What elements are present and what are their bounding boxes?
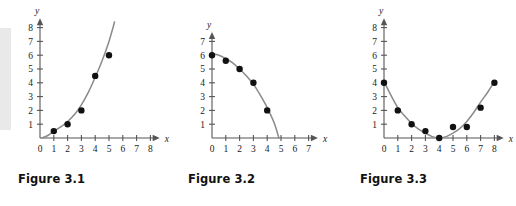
x-tick-label: 6 [120,144,125,154]
data-point [395,107,401,113]
x-tick-label: 3 [251,144,256,154]
x-tick-label: 4 [437,144,442,154]
y-tick-label: 4 [200,78,205,88]
x-tick-label: 1 [223,144,228,154]
data-point [436,135,442,141]
x-axis-label: x [164,134,170,144]
figure-panel-3-1: xy01234567812345678 Figure 3.1 [2,0,174,206]
x-tick-label: 1 [395,144,400,154]
data-point [78,107,84,113]
y-axis-label: y [34,6,40,16]
data-point [51,128,57,134]
x-tick-label: 4 [93,144,98,154]
figure-caption-3-3: Figure 3.3 [360,172,427,186]
y-tick-label: 1 [372,120,377,130]
y-tick-group: 12345678 [372,23,387,130]
y-axis-arrowhead [381,18,387,25]
figure-caption-3-2: Figure 3.2 [188,172,255,186]
x-tick-label: 7 [478,144,483,154]
data-point [250,80,256,86]
data-point-group [209,52,271,114]
data-point [450,124,456,130]
y-tick-label: 1 [28,120,33,130]
x-axis-arrowhead [311,135,318,141]
x-axis-label: x [322,134,328,144]
axes-2: xy [378,6,514,143]
x-tick-label: 2 [65,144,70,154]
axes-0: xy [34,6,170,143]
y-tick-label: 3 [28,92,33,102]
axes-1: xy [206,20,328,143]
y-tick-label: 3 [372,92,377,102]
y-tick-label: 5 [372,64,377,74]
y-axis-label: y [206,20,212,30]
x-tick-label: 0 [382,144,387,154]
data-point [408,121,414,127]
x-tick-label: 4 [265,144,270,154]
x-tick-label: 8 [148,144,153,154]
y-tick-label: 7 [372,37,377,47]
figure-panel-3-3: xy01234567812345678 Figure 3.3 [346,0,516,206]
x-tick-label: 2 [409,144,414,154]
data-point [422,128,428,134]
x-tick-label: 8 [492,144,497,154]
y-tick-label: 7 [28,37,33,47]
y-tick-label: 6 [372,51,377,61]
x-tick-label: 7 [134,144,139,154]
x-tick-label: 2 [237,144,242,154]
data-point-group [51,52,113,134]
figure-caption-3-1: Figure 3.1 [18,172,85,186]
trend-curve [212,54,279,138]
y-tick-label: 2 [28,106,33,116]
y-tick-label: 6 [28,51,33,61]
x-tick-label: 1 [51,144,56,154]
y-tick-label: 3 [200,92,205,102]
x-axis-label: x [508,134,514,144]
data-point [64,121,70,127]
figure-sheet: xy01234567812345678 Figure 3.1 xy0123456… [0,0,516,206]
x-tick-label: 6 [464,144,469,154]
data-point [464,124,470,130]
y-axis-label: y [378,6,384,16]
y-tick-label: 8 [372,23,377,33]
x-tick-label: 0 [38,144,43,154]
x-tick-label: 3 [423,144,428,154]
data-point [477,104,483,110]
y-tick-label: 2 [200,106,205,116]
data-point [491,80,497,86]
y-tick-label: 5 [28,64,33,74]
y-tick-label: 4 [28,78,33,88]
data-point [209,52,215,58]
x-axis-arrowhead [153,135,160,141]
y-tick-group: 12345678 [28,23,43,130]
y-axis-arrowhead [209,32,215,39]
y-tick-label: 8 [28,23,33,33]
y-tick-label: 4 [372,78,377,88]
data-point [106,52,112,58]
x-tick-label: 3 [79,144,84,154]
y-tick-group: 1234567 [200,37,215,130]
y-axis-arrowhead [37,18,43,25]
y-tick-label: 6 [200,51,205,61]
plot-area-3-2: xy012345671234567 [174,4,346,169]
x-axis-arrowhead [497,135,504,141]
y-tick-label: 7 [200,37,205,47]
x-tick-label: 5 [107,144,112,154]
x-tick-label: 5 [279,144,284,154]
y-tick-label: 2 [372,106,377,116]
trend-curve [42,22,114,138]
x-tick-label: 6 [292,144,297,154]
data-point [381,80,387,86]
plot-area-3-3: xy01234567812345678 [346,4,516,169]
data-point [92,73,98,79]
data-point [236,66,242,72]
x-tick-label: 5 [451,144,456,154]
data-point [264,107,270,113]
figure-panel-3-2: xy012345671234567 Figure 3.2 [174,0,346,206]
y-tick-label: 1 [200,120,205,130]
x-tick-label: 7 [306,144,311,154]
data-point [223,58,229,64]
y-tick-label: 5 [200,64,205,74]
plot-area-3-1: xy01234567812345678 [2,4,174,169]
x-tick-label: 0 [210,144,215,154]
